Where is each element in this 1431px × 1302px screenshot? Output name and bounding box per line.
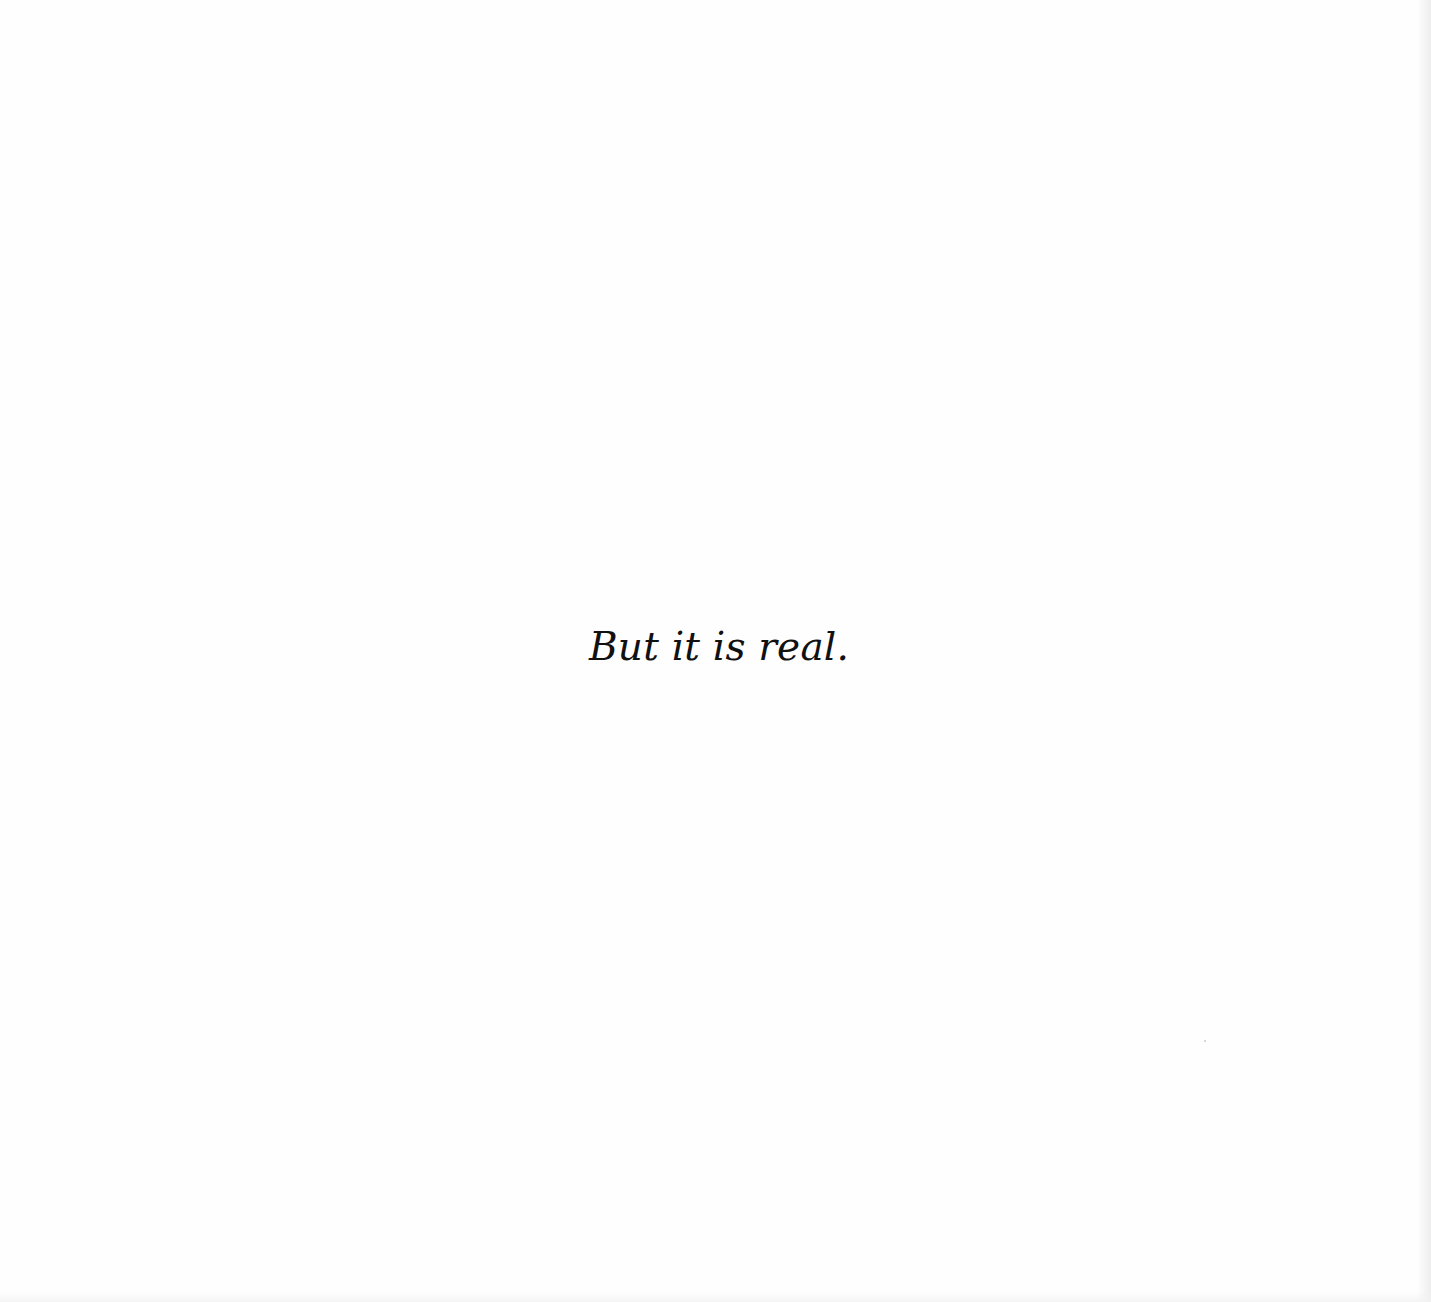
scan-speck — [1204, 1040, 1206, 1042]
page-edge-shadow — [1417, 0, 1431, 1302]
book-page: But it is real. — [0, 0, 1431, 1302]
page-text: But it is real. — [589, 622, 849, 672]
page-bottom-shadow — [0, 1292, 1431, 1302]
